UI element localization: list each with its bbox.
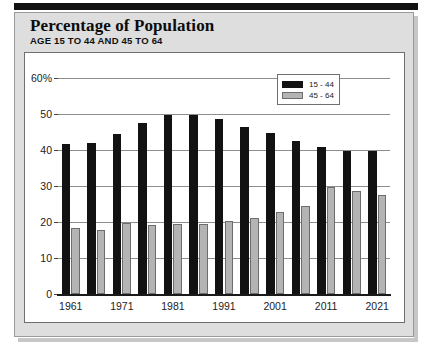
x-tick-label: 1971 [102, 300, 142, 312]
chart-legend: 15 - 44 45 - 64 [277, 74, 340, 105]
bar-15-44-1961 [62, 144, 71, 294]
y-tick-label-wrap: 20 [20, 216, 52, 228]
y-tick-label: 20 [40, 216, 52, 228]
bar-15-44-1981 [164, 115, 173, 294]
legend-label: 15 - 44 [309, 80, 334, 89]
bar-15-44-1976 [138, 123, 147, 294]
plot-area [58, 78, 390, 294]
y-tick-label-wrap: 30 [20, 180, 52, 192]
y-tick-label: 30 [40, 180, 52, 192]
x-tick-label: 2011 [306, 300, 346, 312]
panel-shadow-right [414, 16, 418, 342]
y-tick-label: 60% [31, 72, 52, 84]
top-rule-divider [14, 3, 418, 10]
page-title: Percentage of Population [30, 16, 214, 36]
bar-45-64-2021 [378, 195, 387, 294]
bar-45-64-1996 [250, 218, 259, 294]
legend-item: 45 - 64 [282, 90, 334, 100]
x-axis-line [57, 294, 391, 296]
x-tick-label: 1961 [51, 300, 91, 312]
bar-45-64-1971 [122, 223, 131, 294]
panel-shadow-bottom [18, 338, 418, 342]
y-tick-label-wrap: 60% [20, 72, 52, 84]
y-tick-label-wrap: 50 [20, 108, 52, 120]
bar-15-44-1971 [113, 134, 122, 294]
legend-label: 45 - 64 [309, 91, 334, 100]
bar-45-64-2016 [352, 191, 361, 294]
bar-45-64-1986 [199, 224, 208, 294]
y-tick-label-wrap: 0 [20, 288, 52, 300]
bar-45-64-1961 [71, 228, 80, 294]
bar-15-44-2016 [343, 151, 352, 294]
bar-15-44-2011 [317, 147, 326, 294]
page-subtitle: AGE 15 TO 44 AND 45 TO 64 [30, 35, 163, 46]
bar-15-44-1966 [87, 143, 96, 294]
x-tick-label: 1991 [204, 300, 244, 312]
legend-swatch-black-icon [282, 81, 303, 88]
bar-15-44-2006 [292, 141, 301, 294]
bar-45-64-2001 [276, 212, 285, 294]
bar-45-64-1966 [97, 230, 106, 294]
bar-15-44-1991 [215, 119, 224, 294]
legend-item: 15 - 44 [282, 79, 334, 89]
legend-swatch-gray-icon [282, 92, 303, 99]
bar-45-64-1991 [225, 221, 234, 294]
bar-45-64-2006 [301, 206, 310, 294]
x-tick-label: 2001 [255, 300, 295, 312]
y-tick-label: 0 [46, 288, 52, 300]
y-tick-label: 40 [40, 144, 52, 156]
bar-15-44-2001 [266, 133, 275, 294]
bar-45-64-1976 [148, 225, 157, 294]
y-tick-label-wrap: 10 [20, 252, 52, 264]
bar-45-64-1981 [173, 224, 182, 294]
bar-15-44-2021 [368, 151, 377, 294]
x-tick-label: 1981 [153, 300, 193, 312]
x-tick-label: 2021 [357, 300, 397, 312]
y-tick-label: 10 [40, 252, 52, 264]
bar-45-64-2011 [327, 187, 336, 294]
bar-15-44-1996 [240, 127, 249, 294]
y-tick-label-wrap: 40 [20, 144, 52, 156]
bar-15-44-1986 [189, 115, 198, 294]
y-tick-label: 50 [40, 108, 52, 120]
chart-page: Percentage of Population AGE 15 TO 44 AN… [0, 0, 426, 353]
